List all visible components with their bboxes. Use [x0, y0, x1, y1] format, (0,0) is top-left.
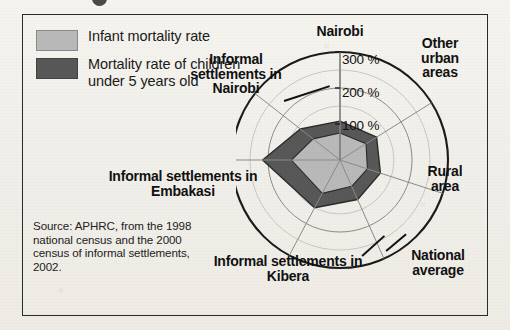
tick-label-300: 300 % [342, 52, 379, 67]
figure-root: Infant mortality rate Mortality rate of … [0, 0, 510, 330]
axis-label-nairobi: Nairobi [292, 24, 388, 39]
axis-label-other-urban: Other urban areas [404, 36, 476, 80]
axis-label-national-average: National average [396, 248, 480, 277]
legend-swatch-under5 [36, 58, 78, 79]
tick-label-200: 200 % [342, 85, 379, 100]
axis-label-embakasi: Informal settlements in Embakasi [88, 169, 278, 198]
axis-label-rural-area: Rural area [412, 164, 478, 193]
radar-chart: 300 % 200 % 100 % Nairobi Other urban ar… [236, 24, 484, 302]
tick-label-100: 100 % [342, 118, 379, 133]
page-bleed-glyph [92, 0, 107, 6]
axis-label-kibera: Informal settlements in Kibera [198, 254, 378, 283]
axis-label-informal-nairobi: Informal settlements in Nairobi [184, 52, 288, 96]
legend-label-infant: Infant mortality rate [88, 28, 210, 45]
source-note: Source: APHRC, from the 1998 national ce… [33, 219, 218, 273]
legend-swatch-infant [36, 30, 78, 51]
legend-item-infant-mortality: Infant mortality rate [36, 28, 251, 51]
